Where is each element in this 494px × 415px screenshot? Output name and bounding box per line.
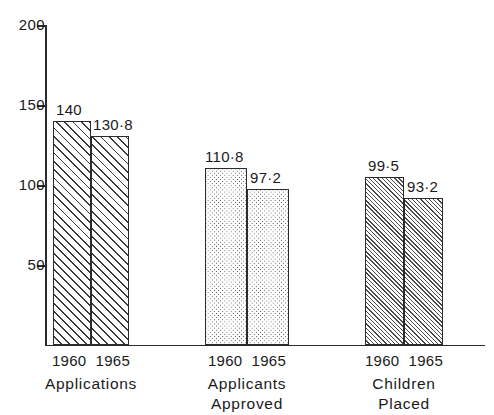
category-years: 19601965 <box>38 351 144 371</box>
y-axis-line <box>45 25 47 346</box>
year-label-1960: 1960 <box>208 351 243 371</box>
category-label-children-placed: 19601965 Children Placed <box>351 351 457 415</box>
category-label-applications: 19601965 Applications <box>38 351 144 394</box>
bar-children-placed-1965[interactable] <box>404 198 443 345</box>
year-label-1960: 1960 <box>52 351 87 371</box>
category-name-line2: Approved <box>194 394 300 414</box>
year-label-1965: 1965 <box>409 351 444 371</box>
bar-children-placed-1960[interactable] <box>365 177 404 345</box>
bar-value-label: 99·5 <box>368 158 399 173</box>
year-label-1960: 1960 <box>365 351 400 371</box>
bar-applicants-approved-1960[interactable] <box>205 168 247 345</box>
bar-value-label: 130·8 <box>93 117 133 132</box>
y-tick-label: 50 <box>11 256 45 273</box>
category-years: 19601965 <box>194 351 300 371</box>
year-label-1965: 1965 <box>252 351 287 371</box>
category-name: Applicants <box>194 374 300 394</box>
bar-applicants-approved-1965[interactable] <box>247 189 289 345</box>
bar-value-label: 110·8 <box>205 149 244 164</box>
year-label-1965: 1965 <box>96 351 131 371</box>
bar-value-label: 93·2 <box>407 179 438 194</box>
category-years: 19601965 <box>351 351 457 371</box>
category-name: Children <box>351 374 457 394</box>
x-axis-line <box>45 345 485 346</box>
y-tick-label: 150 <box>11 96 45 113</box>
category-name: Applications <box>38 374 144 394</box>
bar-applications-1960[interactable] <box>53 121 91 345</box>
bar-value-label: 97·2 <box>250 170 281 185</box>
category-name-line2: Placed <box>351 394 457 414</box>
bar-value-label: 140 <box>56 102 82 117</box>
y-tick-label: 100 <box>11 176 45 193</box>
bar-applications-1965[interactable] <box>91 136 129 345</box>
y-tick-label: 200 <box>11 16 45 33</box>
category-label-applicants-approved: 19601965 Applicants Approved <box>194 351 300 415</box>
